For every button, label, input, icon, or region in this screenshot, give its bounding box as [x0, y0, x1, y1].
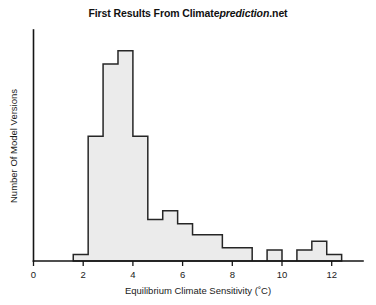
x-axis-tick-label: 10: [277, 269, 288, 280]
x-axis-tick-label: 12: [326, 269, 337, 280]
x-axis-tick-label: 4: [130, 269, 135, 280]
x-axis-tick-label: 6: [180, 269, 185, 280]
x-axis-tick-label: 8: [230, 269, 235, 280]
x-axis-tick-label: 0: [31, 269, 36, 280]
chart-figure: First Results From Climateprediction.net…: [0, 0, 376, 305]
x-axis-ticks: 024681012: [31, 261, 337, 280]
histogram-series: [73, 51, 341, 261]
x-axis-title: Equilibrium Climate Sensitivity (˚C): [125, 285, 271, 296]
histogram-plot: 024681012 Equilibrium Climate Sensitivit…: [0, 0, 376, 305]
x-axis-tick-label: 2: [81, 269, 86, 280]
histogram-outline: [73, 51, 341, 261]
y-axis-title: Number Of Model Versions: [8, 89, 19, 203]
